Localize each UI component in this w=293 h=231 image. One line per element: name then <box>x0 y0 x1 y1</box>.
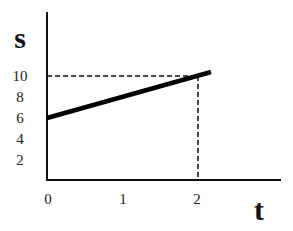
position-time-chart: s t 10 8 6 4 2 0 1 2 <box>0 0 293 231</box>
y-tick-8: 8 <box>16 89 24 106</box>
x-tick-0: 0 <box>44 191 52 208</box>
x-axis-label: t <box>254 193 264 227</box>
data-line <box>47 72 211 118</box>
x-tick-1: 1 <box>119 191 127 208</box>
y-tick-4: 4 <box>16 131 24 148</box>
x-tick-2: 2 <box>193 191 201 208</box>
y-tick-6: 6 <box>16 110 24 127</box>
y-axis-label: s <box>14 21 26 55</box>
y-tick-10: 10 <box>13 68 28 85</box>
y-tick-2: 2 <box>16 152 24 169</box>
